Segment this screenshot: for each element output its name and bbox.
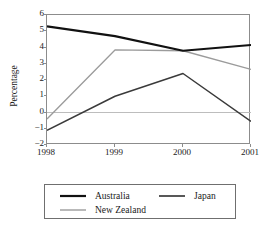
legend-swatch-new-zealand (60, 205, 86, 215)
y-tick-mark (44, 95, 47, 96)
y-tick-label: 4 (14, 42, 44, 51)
y-tick-label: 2 (14, 74, 44, 83)
series-line-japan (47, 74, 251, 131)
y-tick-mark (44, 79, 47, 80)
y-tick-mark (44, 14, 47, 15)
x-tick-label: 1998 (37, 147, 55, 157)
x-tick-label: 2001 (241, 147, 259, 157)
legend-item-japan: Japan (159, 190, 216, 202)
x-tick-mark (250, 144, 251, 147)
legend-swatch-japan (159, 191, 185, 201)
y-tick-mark (44, 47, 47, 48)
series-line-australia (47, 26, 251, 50)
legend-label-australia: Australia (95, 191, 130, 201)
y-axis-tick-labels: 6543210−1−2 (12, 0, 44, 227)
y-tick-label: 0 (14, 107, 44, 116)
y-tick-label: 1 (14, 90, 44, 99)
x-tick-mark (114, 144, 115, 147)
x-tick-mark (46, 144, 47, 147)
x-axis-tick-labels: 1998199920002001 (0, 147, 274, 161)
x-tick-label: 1999 (105, 147, 123, 157)
chart-legend: Australia New Zealand Japan (44, 184, 236, 219)
legend-swatch-australia (60, 191, 86, 201)
plot-area (46, 14, 250, 144)
data-series-group (47, 26, 251, 130)
legend-item-australia: Australia (60, 190, 130, 202)
x-tick-label: 2000 (173, 147, 191, 157)
y-tick-label: 6 (14, 9, 44, 18)
legend-label-japan: Japan (194, 191, 216, 201)
legend-label-new-zealand: New Zealand (95, 205, 146, 215)
y-tick-mark (44, 30, 47, 31)
chart-figure: Percentage 6543210−1−2 1998199920002001 … (0, 0, 274, 227)
series-canvas (47, 15, 251, 145)
y-tick-mark (44, 128, 47, 129)
y-tick-mark (44, 63, 47, 64)
y-tick-label: 5 (14, 25, 44, 34)
legend-item-new-zealand: New Zealand (60, 204, 146, 216)
x-tick-mark (182, 144, 183, 147)
y-tick-label: −1 (14, 123, 44, 132)
y-tick-label: 3 (14, 58, 44, 67)
y-tick-mark (44, 112, 47, 113)
